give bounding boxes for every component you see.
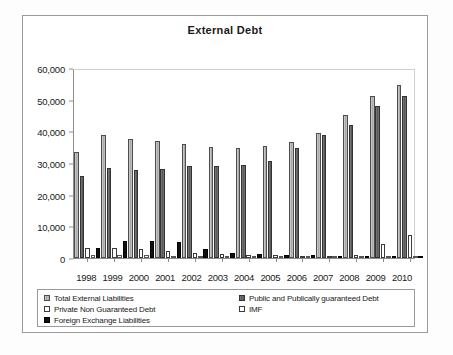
legend-column-left: Total External LiabilitiesPrivate Non Gu… [44,293,213,323]
bar [408,235,413,258]
y-axis-tick-label: 60,000 [37,64,65,75]
x-axis-tick-mark [114,258,115,262]
chart-frame: External Debt 010,00020,00030,00040,0005… [22,15,428,333]
bar-group [370,70,397,258]
x-axis-tick-mark [276,258,277,262]
x-axis-tick-label: 2005 [257,272,283,283]
legend-label: Private Non Guaranteed Debt [54,305,155,314]
bar-group [74,70,101,258]
bar [123,241,128,258]
legend-swatch-icon [44,317,50,323]
x-axis-tick-label: 2000 [126,272,152,283]
bar [392,256,397,258]
bar [316,133,321,258]
y-axis-tick-label: 20,000 [37,190,65,201]
x-axis-tick-label: 1998 [73,272,99,283]
bar [74,152,79,258]
bar [177,242,182,258]
bar [214,166,219,258]
chart-title: External Debt [23,24,427,36]
bar [107,168,112,258]
legend-item[interactable]: Public and Publically guaranteed Debt [239,293,408,304]
bar [418,256,423,258]
legend-swatch-icon [44,295,50,301]
bar [279,256,284,258]
bar [101,135,106,258]
bar [117,255,122,258]
bar [230,253,235,258]
legend-label: IMF [249,305,262,314]
bar [171,256,176,258]
y-axis-tick-label: 10,000 [37,222,65,233]
x-axis-tick-label: 2001 [152,272,178,283]
bar [306,256,311,258]
bar-group [235,70,262,258]
bar-groups [74,70,414,258]
x-axis-labels: 1998199920002001200220032004200520062007… [73,272,415,283]
bar [150,241,155,258]
bar [139,249,144,258]
x-axis-tick-mark [356,258,357,262]
x-axis-tick-mark [302,258,303,262]
bar [128,139,133,258]
bar [252,256,257,258]
bar [203,249,208,258]
bar [144,255,149,258]
x-axis-tick-mark [383,258,384,262]
bar [263,146,268,258]
bar [402,96,407,258]
bar [375,106,380,258]
bar [85,248,90,258]
y-axis-labels: 010,00020,00030,00040,00050,00060,000 [23,66,69,261]
legend-label: Total External Liabilities [54,294,134,303]
y-axis-tick-label: 30,000 [37,159,65,170]
y-axis-tick-label: 40,000 [37,127,65,138]
bar [322,135,327,258]
bar [381,244,386,258]
legend-swatch-icon [44,306,50,312]
bar [289,142,294,258]
legend-item[interactable]: Private Non Guaranteed Debt [44,304,213,315]
bar [134,170,139,258]
bar [295,148,300,258]
y-axis-tick-label: 0 [60,254,65,265]
bar [359,256,364,258]
legend-item[interactable]: IMF [239,304,408,315]
bar-group [128,70,155,258]
legend-swatch-icon [239,295,245,301]
bar [112,248,117,258]
bar [198,256,203,258]
chart-legend: Total External LiabilitiesPrivate Non Gu… [37,289,415,327]
x-axis-tick-mark [87,258,88,262]
bar-group [208,70,235,258]
bar-group [289,70,316,258]
bar [241,165,246,258]
bar-group [262,70,289,258]
x-axis-tick-label: 1999 [99,272,125,283]
bar [349,125,354,258]
bar [96,248,101,258]
bar-group [155,70,182,258]
bar-group [101,70,128,258]
x-axis-tick-label: 2002 [178,272,204,283]
bar [284,255,289,258]
plot-area [73,69,415,259]
bar [225,256,230,258]
bar [209,147,214,258]
legend-item[interactable]: Foreign Exchange Liabilities [44,315,213,326]
x-axis-tick-label: 2003 [205,272,231,283]
legend-label: Foreign Exchange Liabilities [54,316,150,325]
x-axis-tick-mark [168,258,169,262]
x-axis-tick-mark [195,258,196,262]
bar [397,85,402,258]
bar [343,115,348,258]
bar [236,148,241,258]
x-axis-tick-label: 2010 [389,272,415,283]
legend-column-right: Public and Publically guaranteed DebtIMF [213,293,408,323]
bar [166,251,171,258]
legend-item[interactable]: Total External Liabilities [44,293,213,304]
x-axis-tick-label: 2008 [336,272,362,283]
bar [187,166,192,258]
bar [257,254,262,258]
x-axis-tick-label: 2007 [310,272,336,283]
